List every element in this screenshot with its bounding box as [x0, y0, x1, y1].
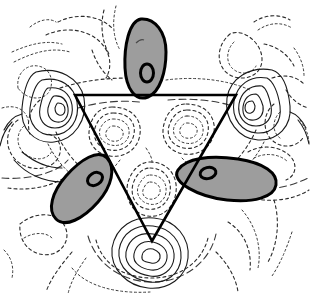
contour-plot-canvas: 000: [0, 0, 311, 294]
top-filled-lobe: [125, 19, 166, 98]
contour-map-figure: 000: [0, 0, 311, 294]
